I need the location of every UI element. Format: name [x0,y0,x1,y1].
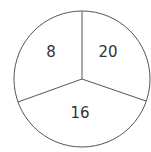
sector-label-bottom: 16 [70,104,89,122]
divided-circle-diagram: ) 8 20 16 [0,0,151,152]
divider-lower-right [82,79,146,101]
divider-lower-left [18,79,82,102]
sector-label-upper-left: 8 [46,43,56,61]
sector-label-upper-right: 20 [98,43,117,61]
corner-label: ) [0,1,1,15]
